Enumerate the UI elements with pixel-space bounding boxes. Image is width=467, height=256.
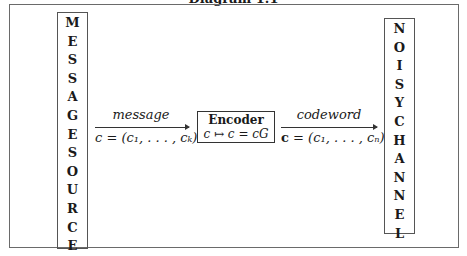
- message-label: message: [95, 107, 187, 122]
- letter: M: [65, 14, 79, 33]
- letter: O: [67, 163, 78, 182]
- codeword-components: = (c₁, . . . , cₙ): [289, 130, 385, 145]
- codeword-label: codeword: [281, 107, 377, 122]
- letter: G: [67, 107, 78, 126]
- letter: I: [396, 57, 402, 76]
- encoder-box: Encoder c ↦ c = cG: [197, 111, 275, 143]
- message-formula: c = (c₁, . . . , cₖ): [95, 130, 187, 145]
- letter: N: [394, 187, 406, 206]
- letter: O: [394, 39, 405, 58]
- message-arrow: [95, 127, 189, 128]
- letter: S: [68, 51, 77, 70]
- encoder-title: Encoder: [198, 113, 274, 127]
- message-source-box: M E S S A G E S O U R C E: [57, 12, 88, 249]
- letter: S: [68, 70, 77, 89]
- codeword-arrow: [281, 127, 377, 128]
- letter: S: [395, 76, 404, 95]
- letter: U: [67, 181, 78, 200]
- letter: E: [68, 33, 78, 52]
- letter: C: [394, 113, 404, 132]
- letter: E: [395, 206, 405, 225]
- encoder-formula: c ↦ c = cG: [198, 127, 274, 141]
- letter: E: [68, 237, 78, 256]
- letter: R: [67, 200, 78, 219]
- letter: A: [394, 150, 404, 169]
- codeword-vector: c: [281, 130, 289, 145]
- letter: E: [68, 126, 78, 145]
- letter: A: [67, 88, 77, 107]
- letter: H: [393, 132, 405, 151]
- letter: L: [395, 225, 404, 244]
- letter: Y: [395, 94, 404, 113]
- letter: C: [67, 219, 77, 238]
- noisy-channel-box: N O I S Y C H A N N E L: [384, 18, 415, 234]
- codeword-formula: c = (c₁, . . . , cₙ): [281, 130, 377, 145]
- letter: N: [394, 169, 406, 188]
- letter: S: [68, 144, 77, 163]
- letter: N: [394, 20, 406, 39]
